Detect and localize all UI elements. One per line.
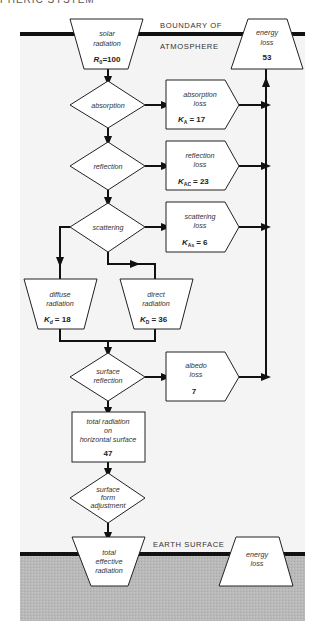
- figure-caption: PHERIC SYSTEM: [0, 0, 95, 5]
- svg-text:on: on: [104, 426, 112, 435]
- earth-surface-label: EARTH SURFACE: [153, 540, 224, 549]
- energy-loss-top-node: energy loss 53: [231, 19, 303, 69]
- scattering-loss-node: scattering loss KAs= 6: [166, 202, 239, 252]
- svg-text:loss: loss: [190, 370, 203, 379]
- svg-text:surface: surface: [96, 367, 120, 376]
- svg-text:solar: solar: [99, 29, 115, 38]
- svg-text:total: total: [102, 548, 116, 557]
- svg-text:adjustment: adjustment: [90, 501, 126, 510]
- svg-text:Kd= 18: Kd= 18: [44, 315, 71, 325]
- svg-text:scattering: scattering: [92, 223, 123, 232]
- svg-text:energy: energy: [256, 28, 278, 37]
- svg-text:albedo: albedo: [185, 361, 207, 370]
- svg-text:reflection: reflection: [93, 376, 122, 385]
- svg-text:radiation: radiation: [46, 299, 74, 308]
- svg-text:KAC= 23: KAC= 23: [178, 177, 209, 187]
- svg-text:KD= 36: KD= 36: [140, 315, 168, 325]
- svg-text:47: 47: [104, 449, 113, 458]
- svg-text:diffuse: diffuse: [49, 290, 70, 299]
- svg-text:reflection: reflection: [185, 151, 214, 160]
- svg-text:absorption: absorption: [91, 101, 125, 110]
- svg-text:loss: loss: [194, 221, 207, 230]
- reflection-loss-node: reflection loss KAC= 23: [166, 141, 239, 190]
- svg-text:loss: loss: [261, 38, 274, 47]
- total-radiation-node: total radiation on horizontal surface 47: [72, 412, 145, 462]
- svg-text:radiation: radiation: [93, 39, 121, 48]
- svg-text:radiation: radiation: [142, 299, 170, 308]
- svg-text:effective: effective: [96, 557, 123, 566]
- boundary-label-1: BOUNDARY OF: [160, 21, 222, 30]
- svg-text:53: 53: [263, 53, 272, 62]
- radiation-flow-diagram: PHERIC SYSTEM BOUNDARY OF ATMOSPHERE EAR…: [0, 0, 325, 632]
- svg-text:loss: loss: [251, 559, 264, 568]
- svg-text:horizontal surface: horizontal surface: [80, 435, 137, 444]
- svg-text:reflection: reflection: [93, 162, 122, 171]
- svg-text:KA= 17: KA= 17: [178, 115, 206, 125]
- svg-text:absorption: absorption: [183, 90, 217, 99]
- svg-text:loss: loss: [194, 160, 207, 169]
- albedo-loss-node: albedo loss 7: [166, 352, 239, 401]
- svg-text:energy: energy: [246, 550, 268, 559]
- svg-text:scattering: scattering: [184, 212, 215, 221]
- svg-text:radiation: radiation: [95, 566, 123, 575]
- svg-text:7: 7: [192, 387, 197, 396]
- boundary-label-2: ATMOSPHERE: [160, 42, 219, 51]
- svg-text:loss: loss: [194, 99, 207, 108]
- absorption-loss-node: absorption loss KA= 17: [166, 80, 239, 129]
- svg-text:direct: direct: [147, 290, 166, 299]
- svg-text:R0=100: R0=100: [94, 55, 121, 65]
- svg-text:total radiation: total radiation: [86, 417, 129, 426]
